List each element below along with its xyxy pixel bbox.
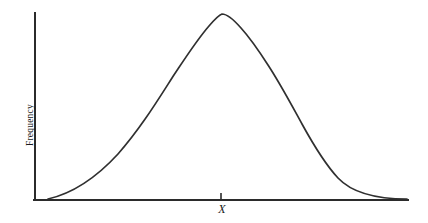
distribution-plot (0, 0, 428, 223)
distribution-curve (48, 14, 407, 199)
frequency-distribution-figure: Frequency X (0, 0, 428, 223)
x-axis-tick-label: X (214, 202, 230, 217)
y-axis-label: Frequency (25, 104, 35, 146)
